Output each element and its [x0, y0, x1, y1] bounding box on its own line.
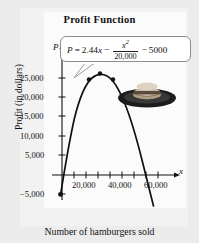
x-tick-label-40000: 40,000: [108, 180, 132, 190]
x-axis-letter: x: [179, 166, 183, 176]
formula-constant: 5000: [149, 45, 167, 55]
point-vertex: [98, 71, 102, 75]
y-tick-label-5000: 5,000: [25, 150, 44, 160]
y-tick-label-25000: 25,000: [20, 73, 44, 83]
y-tick-label-minus5000: −5,000: [20, 189, 44, 199]
formula-text: P = 2.44 x − x2 20,000 − 5000: [67, 37, 167, 63]
profit-function-figure: Profit Function Profit (in dollars) Numb…: [0, 0, 199, 243]
formula-fraction-denominator: 20,000: [113, 52, 138, 61]
callout-tail: [74, 62, 96, 78]
point-right-of-vertex: [111, 77, 115, 81]
y-tick-label-10000: 10,000: [20, 131, 44, 141]
formula-minus-2: −: [142, 45, 147, 55]
formula-callout: P = 2.44 x − x2 20,000 − 5000: [60, 36, 191, 62]
burger-bun-highlight: [137, 83, 158, 91]
formula-equals: =: [75, 45, 80, 55]
point-left-of-vertex: [87, 77, 91, 81]
formula-lhs: P: [67, 45, 73, 55]
y-axis-letter: P: [53, 42, 59, 52]
formula-variable: x: [98, 45, 102, 55]
formula-minus-1: −: [104, 45, 109, 55]
x-tick-label-20000: 20,000: [72, 180, 96, 190]
formula-coefficient: 2.44: [82, 45, 98, 55]
y-tick-label-15000: 15,000: [20, 111, 44, 121]
point-y-intercept: [58, 192, 63, 197]
burger-patty: [134, 91, 160, 94]
x-tick-label-60000: 60,000: [144, 180, 168, 190]
formula-fraction: x2 20,000: [113, 39, 138, 61]
y-tick-label-20000: 20,000: [20, 92, 44, 102]
formula-fraction-numerator: x2: [120, 39, 131, 50]
hamburger-image: [116, 76, 178, 109]
